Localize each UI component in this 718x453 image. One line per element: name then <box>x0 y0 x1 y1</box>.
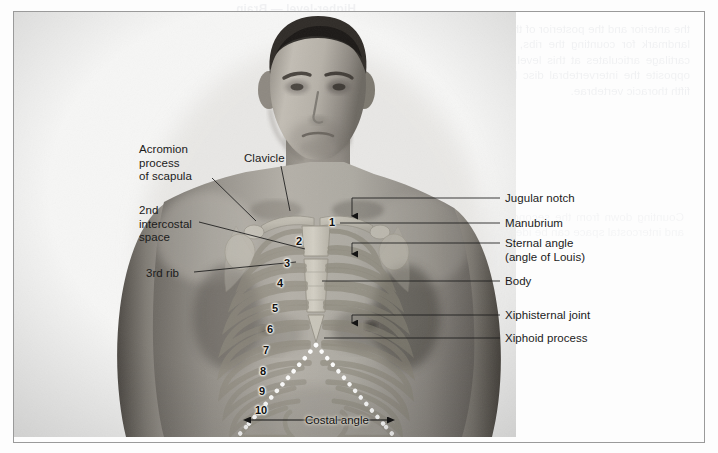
anatomy-figure-plate: Higher-level — Brain the anterior and th… <box>0 0 718 453</box>
plate-frame-border <box>13 11 705 443</box>
